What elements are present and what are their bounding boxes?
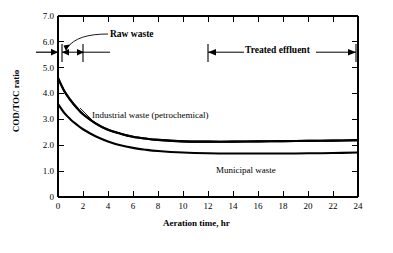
x-axis-label: Aeration time, hr — [163, 218, 230, 228]
x-tick-label-12: 12 — [198, 201, 218, 211]
raw-waste-annotation: Raw waste — [110, 29, 154, 39]
y-tick-label-5: 5.0 — [28, 63, 54, 73]
treated-effluent-annotation: Treated effluent — [245, 45, 310, 55]
x-tick-label-16: 16 — [248, 201, 268, 211]
raw-waste-bracket — [62, 44, 110, 62]
axes-frame — [58, 16, 358, 197]
x-tick-marks-top — [83, 16, 333, 22]
x-tick-label-2: 2 — [73, 201, 93, 211]
y-tick-label-4: 4.0 — [28, 88, 54, 98]
x-tick-label-0: 0 — [48, 201, 68, 211]
x-tick-label-20: 20 — [298, 201, 318, 211]
chart-figure: 7.0 6.0 5.0 4.0 3.0 2.0 1.0 0 0 2 4 6 8 … — [0, 0, 393, 253]
raw-waste-leader-line — [64, 34, 109, 51]
y-tick-label-6: 6.0 — [28, 37, 54, 47]
x-tick-label-14: 14 — [223, 201, 243, 211]
raw-waste-level-arrow — [36, 49, 58, 56]
industrial-waste-label: Industrial waste (petrochemical) — [92, 110, 208, 120]
x-tick-marks — [58, 191, 358, 197]
x-tick-label-4: 4 — [98, 201, 118, 211]
y-axis-label: COD/TOC ratio — [11, 41, 21, 161]
x-tick-label-24: 24 — [348, 201, 368, 211]
y-tick-label-3: 3.0 — [28, 114, 54, 124]
x-tick-label-22: 22 — [323, 201, 343, 211]
y-tick-label-1: 1.0 — [28, 166, 54, 176]
x-tick-label-18: 18 — [273, 201, 293, 211]
municipal-waste-label: Municipal waste — [216, 165, 276, 175]
x-tick-label-6: 6 — [123, 201, 143, 211]
y-tick-label-2: 2.0 — [28, 140, 54, 150]
chart-canvas — [0, 0, 393, 253]
y-tick-label-7: 7.0 — [28, 11, 54, 21]
x-tick-label-10: 10 — [173, 201, 193, 211]
x-tick-label-8: 8 — [148, 201, 168, 211]
